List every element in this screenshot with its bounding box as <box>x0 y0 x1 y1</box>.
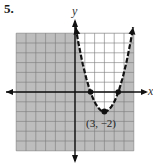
x-axis-left-arrow-icon <box>6 89 13 95</box>
x-axis-right-arrow-icon <box>141 89 148 95</box>
x-intercept-point <box>88 89 94 95</box>
y-axis-down-arrow-icon <box>72 155 78 163</box>
graph <box>0 0 153 164</box>
vertex-point <box>101 109 107 115</box>
x-intercept-point <box>115 89 121 95</box>
y-axis-up-arrow-icon <box>72 19 78 27</box>
vertex-label: (3, −2) <box>86 117 116 129</box>
parabola-right-arrow-icon <box>129 27 136 34</box>
